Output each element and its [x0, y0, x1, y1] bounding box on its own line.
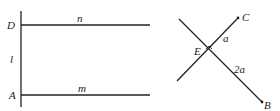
point-A-label: A [8, 89, 16, 101]
line-EB [179, 19, 262, 102]
geometry-diagram: D l A n m C B E a 2a [0, 0, 280, 111]
segment-a-label: a [223, 32, 229, 44]
segment-2a-label: 2a [234, 63, 246, 75]
line-EC [177, 19, 237, 81]
point-D-label: D [6, 19, 15, 31]
left-figure: D l A n m [6, 11, 150, 107]
point-C [237, 17, 240, 20]
line-n-label: n [77, 12, 83, 24]
right-figure: C B E a 2a [177, 11, 271, 111]
line-m-label: m [78, 82, 86, 94]
point-E-label: E [193, 45, 201, 57]
point-B-label: B [264, 99, 271, 111]
line-l-label: l [10, 53, 13, 65]
point-C-label: C [242, 11, 250, 23]
point-B [261, 101, 264, 104]
